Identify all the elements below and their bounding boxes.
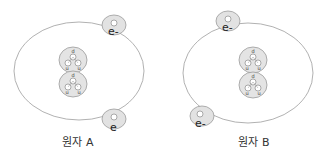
svg-text:u: u [77,89,80,95]
svg-text:e: e [110,121,117,134]
svg-text:u: u [65,65,68,71]
electron: e- [190,106,214,130]
svg-text:d: d [251,48,254,54]
svg-text:d: d [251,73,254,79]
electron: e- [216,11,240,34]
svg-text:u: u [245,90,248,96]
svg-text:u: u [65,89,68,95]
svg-text:d: d [71,48,74,54]
atom-b-label: 원자 B [238,136,269,149]
atom-comparison-diagram: d u u d u u e- e [0,0,330,160]
atom-a: d u u d u u e- e [14,15,144,149]
nucleon: d u u [239,47,267,73]
svg-text:u: u [257,90,260,96]
svg-text:d: d [71,72,74,78]
nucleon: d u u [59,47,87,73]
atom-b: d u u d u u e- e- [183,11,313,149]
atom-a-label: 원자 A [62,136,93,149]
nucleon: d u u [59,71,87,97]
electron: e [102,109,126,134]
svg-text:e-: e- [108,25,119,38]
nucleus-a: d u u d u u [59,47,87,97]
nucleon: d u u [239,72,267,98]
svg-text:u: u [245,65,248,71]
nucleus-b: d u u d u u [239,47,267,98]
svg-text:u: u [77,65,80,71]
svg-text:u: u [257,65,260,71]
svg-text:e-: e- [195,117,206,130]
svg-text:e-: e- [222,21,233,34]
